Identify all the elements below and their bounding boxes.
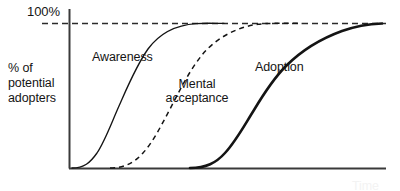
curve-label-awareness: Awareness: [92, 50, 153, 64]
diffusion-of-innovation-figure: 100% % of potential adopters Awareness M…: [0, 0, 400, 191]
curve-label-mental-line-1: Mental: [160, 77, 234, 91]
curve-label-mental-line-2: acceptance: [160, 91, 234, 105]
y-axis-max-label: 100%: [27, 5, 60, 20]
y-axis-title-line-3: adopters: [8, 91, 70, 106]
curve-label-adoption: Adoption: [255, 60, 304, 74]
y-axis-title: % of potential adopters: [8, 61, 70, 106]
x-axis-title: Time: [352, 179, 379, 191]
y-axis-title-line-2: potential: [8, 76, 70, 91]
curve-label-mental-acceptance: Mental acceptance: [160, 77, 234, 105]
y-axis-title-line-1: % of: [8, 61, 70, 76]
